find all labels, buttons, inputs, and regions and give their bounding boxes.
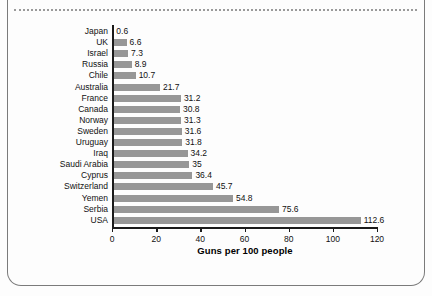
category-label: Japan bbox=[85, 26, 108, 37]
bar-row: Serbia75.6 bbox=[112, 204, 377, 215]
category-label: Switzerland bbox=[64, 181, 108, 192]
bar-value-label: 54.8 bbox=[236, 193, 253, 204]
x-axis-tick bbox=[112, 227, 113, 232]
bar bbox=[112, 139, 182, 146]
bar-value-label: 31.2 bbox=[184, 93, 201, 104]
bar-row: Japan0.6 bbox=[112, 26, 377, 37]
bar-value-label: 112.6 bbox=[364, 215, 385, 226]
bar-row: Cyprus36.4 bbox=[112, 170, 377, 181]
category-label: Sweden bbox=[77, 126, 108, 137]
bar-value-label: 8.9 bbox=[135, 59, 147, 70]
category-label: Saudi Arabia bbox=[60, 159, 108, 170]
bar bbox=[112, 117, 181, 124]
bar-row: Russia8.9 bbox=[112, 59, 377, 70]
category-label: Yemen bbox=[82, 193, 108, 204]
x-axis-tick-label: 20 bbox=[151, 234, 160, 244]
category-label: Israel bbox=[87, 48, 108, 59]
bar-value-label: 31.6 bbox=[185, 126, 202, 137]
bar-value-label: 75.6 bbox=[282, 204, 299, 215]
bar-value-label: 7.3 bbox=[131, 48, 143, 59]
bar-row: Australia21.7 bbox=[112, 82, 377, 93]
bar-value-label: 36.4 bbox=[195, 170, 212, 181]
x-axis-tick bbox=[245, 227, 246, 232]
bar-row: USA112.6 bbox=[112, 215, 377, 226]
bar-value-label: 10.7 bbox=[139, 70, 156, 81]
page-root: Japan0.6UK6.6Israel7.3Russia8.9Chile10.7… bbox=[0, 0, 432, 296]
x-axis-tick-label: 60 bbox=[240, 234, 249, 244]
bar bbox=[112, 206, 279, 213]
x-axis-tick bbox=[156, 227, 157, 232]
bar bbox=[112, 195, 233, 202]
category-label: Serbia bbox=[83, 204, 108, 215]
x-axis-tick bbox=[200, 227, 201, 232]
category-label: Uruguay bbox=[76, 137, 108, 148]
bar-value-label: 30.8 bbox=[183, 104, 200, 115]
x-axis-tick-label: 0 bbox=[110, 234, 115, 244]
x-axis-tick-label: 120 bbox=[370, 234, 384, 244]
bar-row: Iraq34.2 bbox=[112, 148, 377, 159]
x-axis-tick bbox=[377, 227, 378, 232]
category-label: Chile bbox=[89, 70, 108, 81]
y-axis-line bbox=[112, 25, 114, 227]
category-label: Canada bbox=[78, 104, 108, 115]
category-label: Iraq bbox=[93, 148, 108, 159]
bar-row: UK6.6 bbox=[112, 37, 377, 48]
bar-value-label: 6.6 bbox=[130, 37, 142, 48]
bar bbox=[112, 84, 160, 91]
bar-row: Sweden31.6 bbox=[112, 126, 377, 137]
bar-row: Uruguay31.8 bbox=[112, 137, 377, 148]
bar bbox=[112, 39, 127, 46]
bar bbox=[112, 61, 132, 68]
bar bbox=[112, 150, 188, 157]
category-label: France bbox=[82, 93, 108, 104]
bar-row: Yemen54.8 bbox=[112, 193, 377, 204]
bar-row: Canada30.8 bbox=[112, 104, 377, 115]
bar-value-label: 31.3 bbox=[184, 115, 201, 126]
x-axis-title: Guns per 100 people bbox=[112, 245, 378, 256]
bar-row: Israel7.3 bbox=[112, 48, 377, 59]
category-label: USA bbox=[91, 215, 108, 226]
bar-row: Saudi Arabia35 bbox=[112, 159, 377, 170]
bar-value-label: 35 bbox=[192, 159, 201, 170]
bar-row: Norway31.3 bbox=[112, 115, 377, 126]
x-axis-tick-label: 100 bbox=[326, 234, 340, 244]
bar bbox=[112, 161, 189, 168]
bar bbox=[112, 172, 192, 179]
category-label: Norway bbox=[79, 115, 108, 126]
bar bbox=[112, 95, 181, 102]
x-axis-tick-label: 40 bbox=[196, 234, 205, 244]
bar bbox=[112, 106, 180, 113]
bar-row: Switzerland45.7 bbox=[112, 181, 377, 192]
bar-value-label: 0.6 bbox=[116, 26, 128, 37]
category-label: Russia bbox=[82, 59, 108, 70]
bar-value-label: 31.8 bbox=[185, 137, 202, 148]
bar bbox=[112, 128, 182, 135]
plot-area: Japan0.6UK6.6Israel7.3Russia8.9Chile10.7… bbox=[112, 26, 377, 226]
bar-value-label: 34.2 bbox=[191, 148, 208, 159]
bar bbox=[112, 72, 136, 79]
category-label: Australia bbox=[75, 82, 108, 93]
bar-row: France31.2 bbox=[112, 93, 377, 104]
bar-value-label: 45.7 bbox=[216, 181, 233, 192]
bar bbox=[112, 50, 128, 57]
bar-chart: Japan0.6UK6.6Israel7.3Russia8.9Chile10.7… bbox=[0, 0, 432, 296]
bar bbox=[112, 217, 361, 224]
category-label: UK bbox=[96, 37, 108, 48]
x-axis-tick bbox=[333, 227, 334, 232]
category-label: Cyprus bbox=[81, 170, 108, 181]
bar bbox=[112, 183, 213, 190]
x-axis-tick-label: 80 bbox=[284, 234, 293, 244]
bar-row: Chile10.7 bbox=[112, 70, 377, 81]
bar-value-label: 21.7 bbox=[163, 82, 180, 93]
x-axis-tick bbox=[289, 227, 290, 232]
